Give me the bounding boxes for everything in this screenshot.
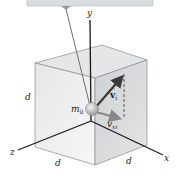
cube-diagram: y z x m0 vi → vxi d d d — [0, 0, 180, 176]
y-axis-label: y — [86, 8, 93, 18]
cube-left-face — [35, 63, 95, 165]
edge-label-left: d — [25, 92, 31, 102]
support-bar — [27, 0, 153, 6]
mass-subscript: 0 — [80, 108, 84, 115]
velocity-x-subscript: xi — [112, 123, 117, 130]
z-axis-label: z — [9, 147, 15, 157]
cube-right-face — [95, 60, 147, 165]
x-axis-label: x — [164, 153, 169, 163]
edge-label-front-right: d — [126, 156, 132, 166]
edge-label-front-left: d — [55, 158, 61, 168]
velocity-arrow-accent: → — [110, 85, 116, 91]
velocity-subscript: i — [115, 94, 117, 101]
ball — [86, 103, 99, 116]
